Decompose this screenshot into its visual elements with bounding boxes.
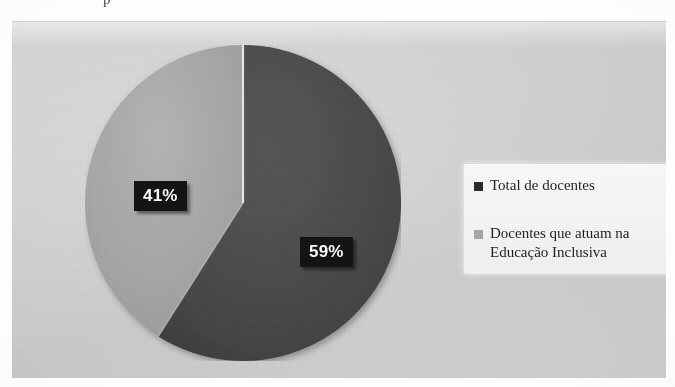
legend-item-total-de-docentes[interactable]: Total de docentes [474,176,666,195]
clipped-text-fragment: p [103,0,112,8]
data-label-41-percent: 41% [134,181,187,211]
legend-swatch-light-icon [474,230,483,239]
pie-graphic [85,45,401,361]
data-label-59-percent: 59% [300,237,353,267]
frame-top-rule [12,21,666,22]
legend-label-docentes-educacao-inclusiva: Docentes que atuam na Educação Inclusiva [490,224,666,262]
pie-svg [85,45,401,361]
legend-swatch-dark-icon [474,182,483,191]
chart-legend: Total de docentes Docentes que atuam na … [464,164,666,274]
pie-chart-figure: 41% 59% Total de docentes Docentes que a… [12,21,666,378]
legend-label-total-de-docentes: Total de docentes [490,176,595,195]
scanned-page: p [0,0,675,387]
frame-top-sheen [12,21,666,47]
legend-item-docentes-educacao-inclusiva[interactable]: Docentes que atuam na Educação Inclusiva [474,224,666,262]
